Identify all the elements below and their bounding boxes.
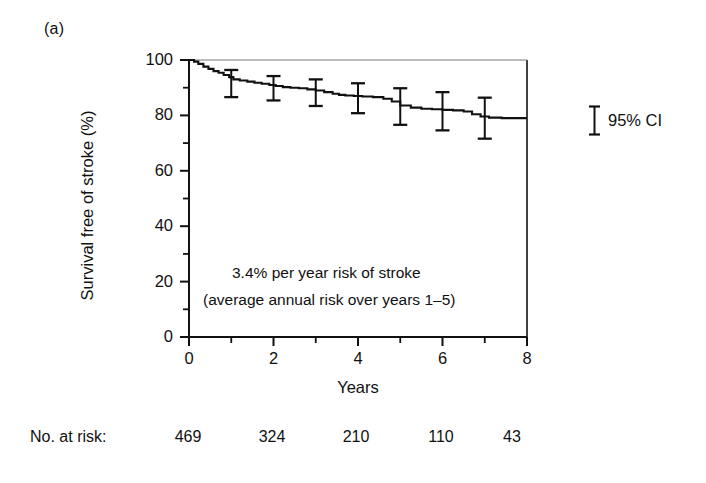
y-tick-label: 0: [127, 328, 173, 345]
legend: 95% CI: [588, 104, 662, 137]
x-tick-label: 8: [507, 350, 547, 367]
x-tick-label: 2: [254, 350, 294, 367]
y-tick-label: 40: [127, 217, 173, 234]
y-tick-label: 80: [127, 106, 173, 123]
y-tick-label: 100: [127, 51, 173, 68]
annotation-risk-rate: 3.4% per year risk of stroke: [232, 265, 421, 281]
error-bar-marker-icon: [588, 104, 601, 137]
risk-table: No. at risk: 46932421011043: [0, 428, 706, 452]
annotation-risk-period: (average annual risk over years 1–5): [203, 292, 455, 308]
risk-table-value: 110: [418, 428, 464, 446]
x-tick-label: 6: [423, 350, 463, 367]
risk-table-title: No. at risk:: [30, 428, 106, 446]
survival-plot: [0, 0, 706, 483]
legend-label: 95% CI: [608, 111, 662, 130]
risk-table-value: 210: [333, 428, 379, 446]
figure-panel-a: (a) Survival free of stroke (%) 02040608…: [0, 0, 706, 483]
x-tick-label: 4: [338, 350, 378, 367]
risk-table-value: 469: [165, 428, 211, 446]
y-tick-label: 60: [127, 162, 173, 179]
x-axis-title: Years: [189, 378, 527, 397]
legend-label-text: 95% CI: [608, 111, 662, 129]
y-tick-label: 20: [127, 273, 173, 290]
x-tick-label: 0: [169, 350, 209, 367]
risk-table-value: 43: [489, 428, 535, 446]
risk-table-value: 324: [249, 428, 295, 446]
